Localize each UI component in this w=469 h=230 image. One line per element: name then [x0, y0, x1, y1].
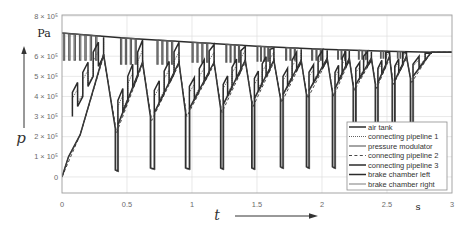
y-tick-label: 4 × 10⁵: [34, 92, 58, 101]
x-tick-label: 0: [60, 200, 64, 209]
x-axis-label: t: [214, 207, 220, 223]
legend-label: brake chamber right: [368, 180, 436, 189]
legend-label: air tank: [368, 123, 393, 132]
y-tick-label: 0: [54, 173, 58, 182]
x-tick-label: 1.5: [252, 200, 262, 209]
pressure-time-chart: 01 × 10⁵2 × 10⁵3 × 10⁵4 × 10⁵5 × 10⁵6 × …: [0, 0, 469, 230]
y-axis-unit: Pa: [37, 27, 51, 40]
arrow-up-icon: [21, 46, 26, 54]
x-tick-label: 2: [320, 200, 324, 209]
legend: air tankconnecting pipeline 1pressure mo…: [347, 122, 447, 190]
x-tick-label: 0.5: [122, 200, 132, 209]
legend-label: connecting pipeline 3: [368, 161, 438, 170]
legend-label: pressure modulator: [368, 142, 433, 151]
y-tick-label: 1 × 10⁵: [34, 152, 58, 161]
y-tick-label: 3 × 10⁵: [34, 112, 58, 121]
arrow-right-icon: [309, 213, 318, 218]
y-tick-label: 6 × 10⁵: [34, 52, 58, 61]
x-tick-label: 3: [450, 200, 454, 209]
legend-label: brake chamber left: [368, 170, 431, 179]
legend-label: connecting pipeline 2: [368, 151, 438, 160]
x-tick-label: 1: [190, 200, 194, 209]
series-connecting-pipeline-3: [72, 37, 103, 116]
y-tick-label: 2 × 10⁵: [34, 132, 58, 141]
y-tick-label: 8 × 10⁵: [34, 12, 58, 21]
y-axis-label: p: [16, 129, 26, 147]
x-axis-unit: s: [415, 201, 420, 212]
legend-label: connecting pipeline 1: [368, 132, 438, 141]
y-tick-label: 5 × 10⁵: [34, 72, 58, 81]
x-tick-label: 2.5: [382, 200, 392, 209]
